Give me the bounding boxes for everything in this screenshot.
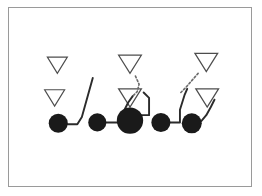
defender-deep-middle-triangle [119,55,142,73]
diagram-frame [8,7,252,187]
left-tackle-marker [88,113,106,131]
right-guard-marker [151,113,170,132]
defender-inside-left-triangle [45,90,65,106]
left-guard-route [67,78,92,124]
center-marker [117,107,143,133]
left-guard-marker [49,114,68,133]
play-diagram-canvas [9,8,251,186]
defender-near-right-triangle [196,89,219,107]
right-tackle-marker [182,113,202,133]
defender-outside-left-triangle [47,57,67,73]
coverage-lines-group [133,73,198,96]
right-tackle-route [201,100,215,122]
offense-group [49,107,202,133]
center-hook-route [141,92,149,115]
right-coverage-link [181,73,198,92]
defender-deep-right-triangle [195,53,218,71]
